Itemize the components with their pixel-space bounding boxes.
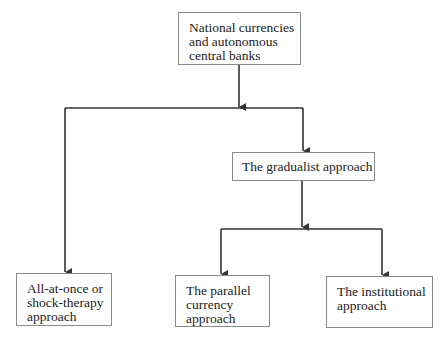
node-label: National currencies and autonomous centr…: [189, 21, 300, 63]
node-shock-therapy: All-at-once or shock-therapy approach: [16, 273, 112, 326]
node-national-currencies: National currencies and autonomous centr…: [178, 12, 301, 65]
node-parallel-currency: The parallel currency approach: [175, 275, 270, 327]
node-label: The institutional approach: [337, 285, 432, 313]
node-gradualist-approach: The gradualist approach: [232, 152, 375, 181]
node-institutional: The institutional approach: [326, 276, 433, 328]
node-label: The parallel currency approach: [186, 284, 269, 326]
node-label: All-at-once or shock-therapy approach: [27, 282, 111, 324]
node-label: The gradualist approach: [242, 160, 374, 174]
